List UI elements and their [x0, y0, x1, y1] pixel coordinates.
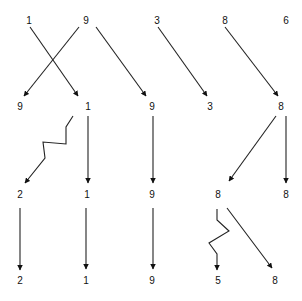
row-2-label: 1 [85, 102, 91, 112]
row-2-label: 3 [207, 102, 213, 112]
row-2-label: 9 [17, 102, 23, 112]
row-1-label: 9 [83, 16, 89, 26]
arrow-3-to-3-icon [158, 27, 207, 96]
row-4-label: 9 [149, 276, 155, 286]
arrow-9-to-9b-icon [96, 27, 146, 96]
row-3-label: 8 [283, 190, 289, 200]
row-4-label: 8 [272, 276, 278, 286]
arrow-8-to-8-row4-icon [227, 208, 272, 268]
arrows [20, 27, 286, 270]
row-2-label: 8 [278, 102, 284, 112]
row-3-label: 9 [149, 190, 155, 200]
row-2-label: 9 [149, 102, 155, 112]
row-3-label: 8 [215, 190, 221, 200]
row-3-label: 2 [17, 190, 23, 200]
arrow-1-zigzag-to-2-icon [25, 116, 73, 183]
row-3-label: 1 [84, 190, 90, 200]
row-4-label: 2 [17, 276, 23, 286]
row-1-label: 3 [154, 16, 160, 26]
row-4-label: 1 [83, 276, 89, 286]
row-1-label: 8 [222, 16, 228, 26]
arrow-diagram [0, 0, 302, 301]
row-4-label: 5 [215, 276, 221, 286]
row-1-label: 6 [283, 16, 289, 26]
arrow-8-zigzag-to-5-icon [209, 209, 229, 270]
arrow-8-to-8-icon [225, 27, 278, 96]
arrow-8-to-8-row3-icon [229, 116, 276, 181]
row-1-label: 1 [26, 16, 32, 26]
